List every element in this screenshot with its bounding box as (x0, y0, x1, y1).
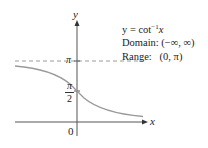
equation-exponent: −1 (151, 23, 158, 31)
origin-label: 0 (68, 126, 74, 137)
y-axis-label: y (73, 9, 78, 20)
function-equation: y = cot−1x (122, 24, 163, 36)
x-axis-label: x (150, 116, 155, 127)
pi-tick-label: π (66, 55, 71, 65)
y-axis-arrow-icon (75, 20, 80, 26)
chart-canvas (0, 0, 208, 148)
domain-annotation: Domain: (−∞, ∞) (122, 38, 195, 49)
equation-variable: x (159, 24, 164, 35)
pi-half-tick-label: π 2 (65, 81, 74, 104)
x-axis-arrow-icon (142, 120, 148, 125)
equation-text: y = cot (122, 24, 151, 35)
pi-half-denominator: 2 (67, 93, 72, 104)
pi-half-numerator: π (67, 80, 72, 91)
range-annotation: Range: (0, π) (122, 52, 182, 63)
